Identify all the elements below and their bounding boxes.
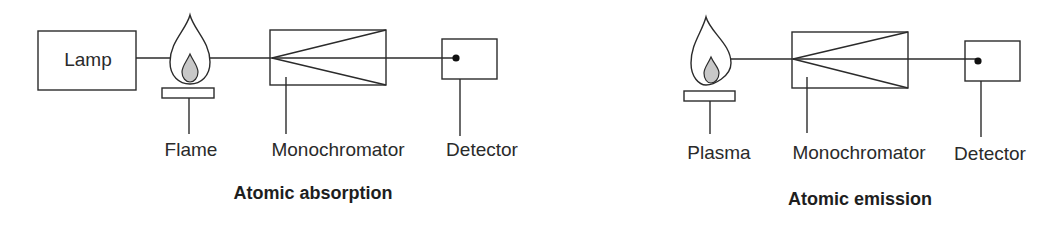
- atomic-absorption-diagram: Lamp Flame Monochromator Detector: [38, 15, 519, 203]
- monochromator-label: Monochromator: [792, 142, 926, 163]
- atomic-emission-diagram: Plasma Monochromator Detector Atomic emi…: [684, 17, 1027, 209]
- plasma-label: Plasma: [687, 142, 751, 163]
- burner: [162, 88, 214, 98]
- lamp-label: Lamp: [64, 49, 112, 70]
- flame-label: Flame: [165, 139, 218, 160]
- emission-title: Atomic emission: [788, 189, 932, 209]
- lamp-box: Lamp: [38, 31, 136, 90]
- detector-label: Detector: [446, 139, 518, 160]
- monochromator-label: Monochromator: [271, 139, 405, 160]
- detector-box: [965, 41, 1020, 81]
- plasma-torch-base: [684, 91, 735, 101]
- detector-label: Detector: [954, 143, 1026, 164]
- monochromator-box: [792, 32, 908, 88]
- detector-box: [442, 39, 497, 79]
- absorption-title: Atomic absorption: [233, 183, 392, 203]
- plasma-flame-icon: [691, 17, 731, 85]
- flame-icon: [170, 15, 210, 84]
